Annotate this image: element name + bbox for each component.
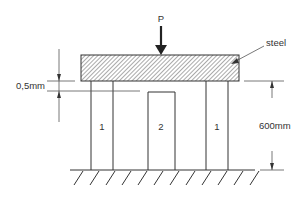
ground-hatch-mark (234, 171, 243, 185)
steel-beam (81, 55, 239, 81)
ground-hatch-mark (202, 171, 211, 185)
column-label-1-left: 1 (99, 121, 104, 132)
column-label-2: 2 (158, 121, 163, 132)
ground-support (70, 170, 259, 185)
ground-hatch-mark (170, 171, 179, 185)
ground-hatch-mark (122, 171, 131, 185)
height-label: 600mm (259, 120, 291, 131)
load-label: P (158, 13, 164, 24)
ground-hatch-mark (138, 171, 147, 185)
column-label-1-right: 1 (214, 121, 219, 132)
load-arrow (155, 26, 167, 55)
gap-label: 0,5mm (16, 80, 45, 91)
ground-hatch-mark (154, 171, 163, 185)
ground-hatch-mark (74, 171, 83, 185)
diagram-canvas: P steel 1 2 1 0,5mm 600mm (0, 0, 306, 201)
arrowhead-icon (155, 45, 167, 55)
ground-hatch-mark (186, 171, 195, 185)
ground-hatch-mark (250, 171, 259, 185)
ground-hatch-mark (90, 171, 99, 185)
steel-label: steel (266, 37, 286, 48)
ground-hatch-mark (106, 171, 115, 185)
ground-hatch-mark (218, 171, 227, 185)
